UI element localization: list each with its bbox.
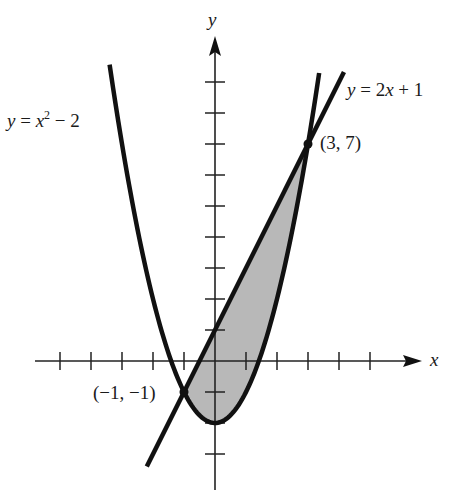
parabola-equation-label: y = x2 − 2	[7, 109, 80, 130]
y-axis-label: y	[208, 10, 216, 29]
intersection-point-top	[304, 140, 313, 149]
point-label-top: (3, 7)	[320, 133, 361, 152]
line-label-tail: + 1	[394, 79, 424, 100]
point-label-bottom: (−1, −1)	[93, 383, 156, 402]
intersection-point-bottom	[180, 388, 189, 397]
parabola-label-eq: =	[15, 110, 35, 131]
parabola-label-x: x	[36, 110, 44, 131]
line-curve	[147, 72, 344, 466]
line-equation-label: y = 2x + 1	[347, 80, 423, 99]
line-label-x: x	[385, 79, 393, 100]
line-label-eq: = 2	[355, 79, 385, 100]
graph-figure	[0, 0, 459, 504]
x-axis-label: x	[430, 350, 438, 369]
parabola-label-tail: − 2	[50, 110, 80, 131]
